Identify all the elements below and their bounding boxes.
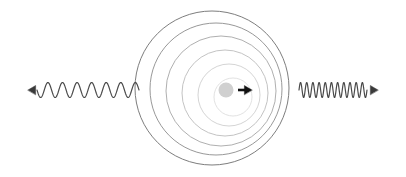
source-particle-dot [219,83,234,98]
doppler-svg-canvas [0,0,406,177]
doppler-diagram [0,0,406,177]
